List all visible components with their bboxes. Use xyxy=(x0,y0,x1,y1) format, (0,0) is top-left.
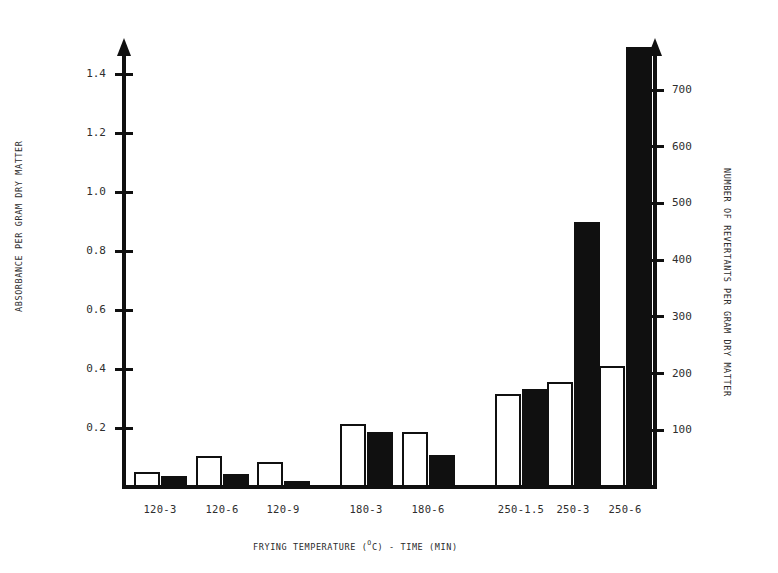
bar-revertants xyxy=(284,481,310,487)
bar-revertants xyxy=(574,222,600,487)
left-axis-tick-label-wrap: 0.4 xyxy=(66,362,106,376)
left-axis-title: ABSORBANCE PER GRAM DRY MATTER xyxy=(14,140,24,312)
x-axis-title-before: FRYING TEMPERATURE ( xyxy=(253,542,367,552)
left-axis-tick-label-wrap: 1.0 xyxy=(66,185,106,199)
right-axis-tick-label-wrap: 100 xyxy=(672,423,718,437)
bar-absorbance xyxy=(196,456,222,487)
x-axis-title-after: C) - TIME (MIN) xyxy=(372,542,458,552)
bar-absorbance xyxy=(340,424,366,487)
bar-group xyxy=(599,45,652,487)
right-axis-tick-label-wrap: 300 xyxy=(672,310,718,324)
bar-revertants xyxy=(223,474,249,487)
right-axis-tick-label: 700 xyxy=(672,83,718,96)
bar-group xyxy=(402,45,455,487)
bar-revertants xyxy=(626,47,652,487)
bar-group xyxy=(196,45,249,487)
bar-group xyxy=(547,45,600,487)
x-axis-category-label: 250-6 xyxy=(585,503,665,515)
bar-revertants xyxy=(367,432,393,487)
right-axis-tick-label: 200 xyxy=(672,367,718,380)
left-axis-tick-label: 0.6 xyxy=(66,303,106,316)
bar-absorbance xyxy=(599,366,625,487)
bar-group xyxy=(257,45,310,487)
left-axis-tick-label-wrap: 1.2 xyxy=(66,126,106,140)
left-axis-tick-label: 1.2 xyxy=(66,126,106,139)
bar-absorbance xyxy=(257,462,283,487)
bar-group xyxy=(495,45,548,487)
right-axis-tick-label: 400 xyxy=(672,253,718,266)
bar-revertants xyxy=(522,389,548,487)
right-axis-tick-label-wrap: 700 xyxy=(672,83,718,97)
right-axis-tick-label: 600 xyxy=(672,140,718,153)
right-axis-tick-label-wrap: 600 xyxy=(672,140,718,154)
bar-revertants xyxy=(161,476,187,487)
left-axis-tick-label-wrap: 0.6 xyxy=(66,303,106,317)
bar-absorbance xyxy=(495,394,521,487)
right-axis-tick-label: 500 xyxy=(672,196,718,209)
x-axis-category-label: 180-6 xyxy=(388,503,468,515)
right-axis-line xyxy=(653,55,657,489)
bar-group xyxy=(340,45,393,487)
left-axis-tick-label: 0.4 xyxy=(66,362,106,375)
bar-group xyxy=(134,45,187,487)
left-axis-tick-label-wrap: 0.8 xyxy=(66,244,106,258)
right-axis-tick-label-wrap: 400 xyxy=(672,253,718,267)
left-axis-tick-label-wrap: 1.4 xyxy=(66,67,106,81)
right-axis-title: NUMBER OF REVERTANTS PER GRAM DRY MATTER xyxy=(722,168,732,397)
left-axis-tick-label: 1.4 xyxy=(66,67,106,80)
bar-absorbance xyxy=(134,472,160,487)
right-axis-tick-label: 100 xyxy=(672,423,718,436)
bar-absorbance xyxy=(547,382,573,487)
bar-chart-figure: 0.20.40.60.81.01.21.4 100200300400500600… xyxy=(0,0,778,573)
bar-absorbance xyxy=(402,432,428,487)
left-axis-tick-label: 0.2 xyxy=(66,421,106,434)
right-axis-tick-label: 300 xyxy=(672,310,718,323)
plot-area xyxy=(126,45,653,487)
x-axis-category-label: 120-9 xyxy=(243,503,323,515)
left-axis-tick-label: 1.0 xyxy=(66,185,106,198)
x-axis-title: FRYING TEMPERATURE (OC) - TIME (MIN) xyxy=(253,539,458,552)
left-axis-tick-label-wrap: 0.2 xyxy=(66,421,106,435)
bar-revertants xyxy=(429,455,455,487)
left-axis-tick-label: 0.8 xyxy=(66,244,106,257)
right-axis-tick-label-wrap: 500 xyxy=(672,196,718,210)
right-axis-tick-label-wrap: 200 xyxy=(672,367,718,381)
